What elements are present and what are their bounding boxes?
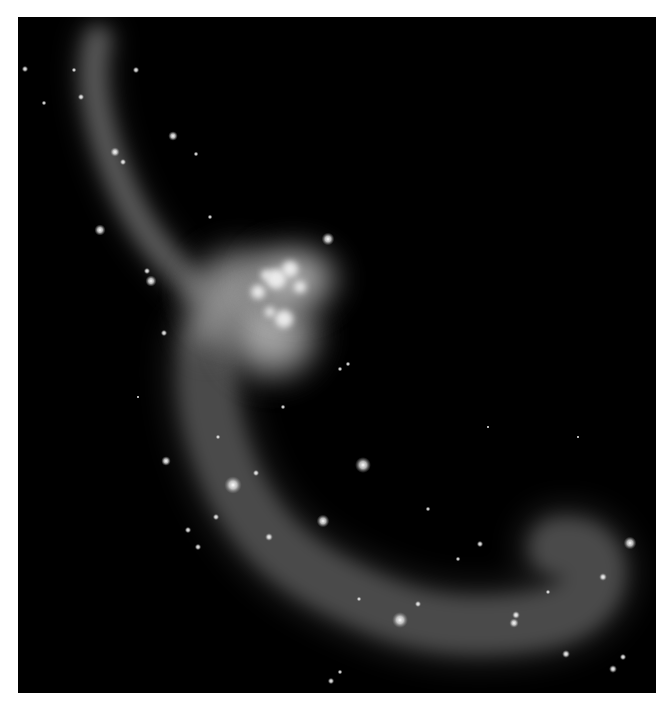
- star: [133, 67, 139, 73]
- star: [338, 367, 343, 372]
- star: [42, 101, 47, 106]
- star: [346, 362, 351, 367]
- star: [338, 670, 343, 675]
- star: [144, 268, 150, 274]
- star: [78, 94, 84, 100]
- star: [562, 650, 570, 658]
- bright-knot: [275, 310, 293, 328]
- star: [224, 476, 242, 494]
- star: [576, 435, 579, 438]
- star: [72, 68, 77, 73]
- star: [110, 147, 120, 157]
- star: [509, 618, 519, 628]
- star: [477, 541, 483, 547]
- star: [609, 665, 617, 673]
- bright-knot: [261, 270, 271, 280]
- bright-knot: [282, 261, 298, 277]
- bright-knot: [265, 307, 275, 317]
- star: [161, 330, 167, 336]
- star: [486, 425, 489, 428]
- star: [194, 152, 199, 157]
- star: [216, 435, 221, 440]
- galaxy-glow: [238, 237, 348, 321]
- star: [415, 601, 421, 607]
- star: [253, 470, 259, 476]
- star: [322, 233, 335, 246]
- star: [317, 515, 330, 528]
- star: [213, 514, 219, 520]
- galaxy-glow: [178, 272, 238, 362]
- star: [512, 611, 520, 619]
- star: [599, 573, 607, 581]
- star: [195, 544, 201, 550]
- star: [145, 275, 156, 286]
- star: [624, 537, 637, 550]
- star: [281, 405, 286, 410]
- star: [161, 456, 171, 466]
- star: [208, 215, 213, 220]
- star: [328, 678, 334, 684]
- astronomical-image: Interacting galaxy pair with long tidal …: [18, 17, 656, 693]
- star: [265, 533, 273, 541]
- bright-knot: [294, 281, 306, 293]
- tidal-tails: [94, 39, 596, 625]
- star: [168, 131, 178, 141]
- star: [22, 66, 28, 72]
- star: [94, 224, 105, 235]
- star: [456, 557, 461, 562]
- star: [357, 597, 362, 602]
- star: [620, 654, 626, 660]
- star: [392, 612, 408, 628]
- star: [355, 457, 371, 473]
- star: [120, 159, 126, 165]
- star: [185, 527, 191, 533]
- bright-knot: [251, 285, 265, 299]
- star: [426, 507, 431, 512]
- star: [546, 590, 551, 595]
- star: [136, 395, 139, 398]
- galaxy-scene: [18, 17, 656, 693]
